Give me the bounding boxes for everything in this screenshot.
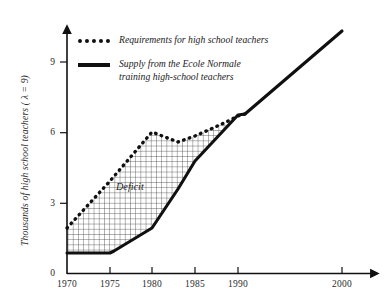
legend-label-supply-line2: training high-school teachers xyxy=(119,71,328,84)
y-axis-ticks xyxy=(60,62,67,203)
deficit-area-label: Deficit xyxy=(116,181,144,192)
x-tick-label-2000: 2000 xyxy=(332,279,352,289)
x-tick-label-1985: 1985 xyxy=(185,279,205,289)
chart-legend: Requirements for high school teachers Su… xyxy=(78,34,328,83)
chart-figure: Thousands of high school teachers ( λ = … xyxy=(0,0,390,303)
legend-label-supply-line1: Supply from the Ecole Normale xyxy=(119,58,328,71)
x-tick-label-1970: 1970 xyxy=(57,279,77,289)
solid-line-swatch-icon xyxy=(78,63,110,67)
y-tick-label-9: 9 xyxy=(40,57,55,67)
x-tick-label-1975: 1975 xyxy=(100,279,120,289)
y-tick-label-0: 0 xyxy=(40,268,55,278)
legend-label-requirements: Requirements for high school teachers xyxy=(119,34,328,47)
legend-item-requirements: Requirements for high school teachers xyxy=(78,34,328,49)
y-tick-label-3: 3 xyxy=(40,198,55,208)
dotted-line-swatch-icon xyxy=(78,39,110,43)
x-tick-label-1990: 1990 xyxy=(228,279,248,289)
x-tick-label-1980: 1980 xyxy=(142,279,162,289)
legend-item-supply: Supply from the Ecole Normale training h… xyxy=(78,58,328,83)
y-tick-label-6: 6 xyxy=(40,127,55,137)
y-axis-title: Thousands of high school teachers ( λ = … xyxy=(19,51,30,271)
